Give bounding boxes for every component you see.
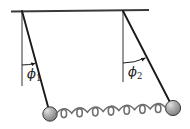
diagram-canvas: ϕ1 ϕ2 [0,0,190,129]
spring-coil-loops [61,104,161,117]
coupling-spring [56,104,166,118]
physics-diagram-coupled-pendulums: ϕ1 ϕ2 [0,0,190,129]
left-pendulum-bob [43,107,57,121]
ceiling-support-bar [11,10,149,12]
left-angle-label: ϕ1 [27,66,41,83]
spring-coil [108,107,113,115]
spring-coil [155,104,160,112]
spring-coil [140,105,145,113]
spring-coil [124,106,129,114]
spring-coil [77,109,82,117]
right-angle-label: ϕ2 [128,64,142,81]
spring-coil [93,108,98,116]
right-angle-arc [123,58,145,63]
right-pendulum-bob [165,100,180,115]
left-angle-arc [22,63,35,65]
right-pendulum-group: ϕ2 [123,11,181,116]
right-pendulum-rod [123,11,171,105]
left-pendulum-group: ϕ1 [22,11,57,121]
spring-coil [61,109,66,117]
left-pendulum-rod [22,11,49,111]
